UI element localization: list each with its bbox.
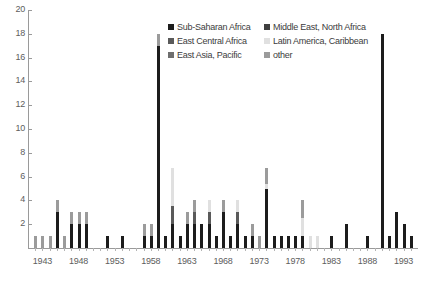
x-axis-tick [411,248,412,251]
bar-segment [193,212,196,224]
bar-segment [157,46,160,248]
bar-segment [78,224,81,248]
legend-swatch-icon [264,38,270,44]
x-axis-tick [115,248,116,251]
legend-label: Latin America, Caribbean [273,36,368,46]
x-axis-tick [317,248,318,251]
bar [294,236,297,248]
x-axis-tick [274,248,275,251]
bar-segment [229,236,232,248]
bar-segment [34,236,37,248]
bar [215,236,218,248]
legend-label: East Central Africa [177,36,247,46]
bar-segment [208,212,211,224]
x-axis-tick [107,248,108,251]
bar [143,224,146,248]
bar [244,236,247,248]
legend-label: East Asia, Pacific [177,50,242,60]
bar [171,168,174,248]
x-axis-tick [57,248,58,251]
bar [150,224,153,248]
bar [388,236,391,248]
bar-segment [78,212,81,224]
x-axis-tick [129,248,130,251]
x-axis-tick [216,248,217,251]
bar-segment [121,236,124,248]
x-axis-tick [252,248,253,251]
x-axis-tick [310,248,311,251]
y-axis-tick [28,224,32,225]
x-axis-tick [151,248,152,251]
chart-legend: Sub-Saharan AfricaMiddle East, North Afr… [168,20,373,62]
bar [164,236,167,248]
bar-segment [316,236,319,248]
x-axis-tick [295,248,296,251]
bar-segment [366,236,369,248]
bar-segment [143,236,146,248]
x-axis-tick [245,248,246,251]
x-axis-tick [375,248,376,251]
x-axis-tick [165,248,166,251]
bar [395,212,398,248]
y-axis-tick [28,177,32,178]
x-axis-tick [136,248,137,251]
bar-segment [330,236,333,248]
y-axis-label: 18 [3,29,25,38]
bar [280,236,283,248]
y-axis-label: 4 [3,195,25,204]
x-axis-tick [42,248,43,251]
bar-segment [294,236,297,248]
bar-segment [236,200,239,212]
x-axis-tick [35,248,36,251]
y-axis-label: 6 [3,172,25,181]
x-axis-tick [389,248,390,251]
bar [34,236,37,248]
bar-chart: 2468101214161820 19431948195319581963196… [0,0,421,287]
x-axis-tick [187,248,188,251]
x-axis-tick [396,248,397,251]
bar-segment [200,224,203,248]
x-axis-tick [100,248,101,251]
x-axis-tick [79,248,80,251]
bar [200,224,203,248]
bar-segment [186,212,189,224]
x-axis-tick [331,248,332,251]
bar [316,236,319,248]
bar [56,200,59,248]
x-axis-tick [172,248,173,251]
x-axis-tick [288,248,289,251]
x-axis-label: 1968 [206,256,240,266]
x-axis-tick [86,248,87,251]
bar-segment [150,224,153,236]
x-axis-label: 1978 [278,256,312,266]
bar-segment [265,168,268,183]
x-axis-tick [259,248,260,251]
x-axis-label: 1953 [98,256,132,266]
bar-segment [179,236,182,248]
y-axis-label: 20 [3,5,25,14]
bar [222,200,225,248]
legend-item: East Asia, Pacific [168,50,264,60]
x-axis-tick [339,248,340,251]
x-axis-label: 1948 [62,256,96,266]
y-axis-tick [28,81,32,82]
bar-segment [287,236,290,248]
y-axis-label: 2 [3,219,25,228]
bar-segment [395,212,398,248]
x-axis-tick [266,248,267,251]
legend-label: other [273,50,292,60]
y-axis-tick [28,248,32,249]
legend-item: Latin America, Caribbean [264,36,373,46]
bar [41,236,44,248]
x-axis-tick [281,248,282,251]
bar-segment [85,212,88,224]
bar [78,212,81,248]
bar-segment [56,200,59,212]
bar-segment [215,236,218,248]
x-axis-tick [209,248,210,251]
bar [366,236,369,248]
bar-segment [244,236,247,248]
bar [70,212,73,248]
x-axis-label: 1973 [242,256,276,266]
x-axis-tick [367,248,368,251]
